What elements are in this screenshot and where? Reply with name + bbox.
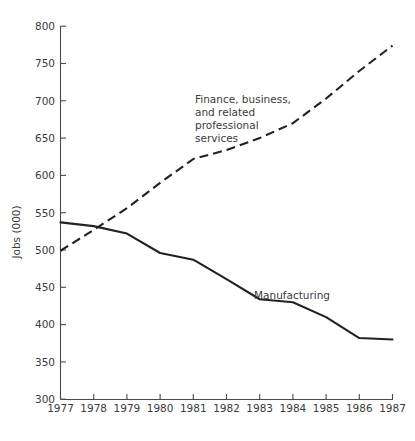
x-tick-label: 1977 <box>47 402 74 414</box>
finance-series-label: Finance, business, and related professio… <box>195 93 291 144</box>
y-axis-ticks <box>61 26 67 399</box>
y-tick-label: 400 <box>35 318 55 330</box>
annotation-line: professional <box>195 119 259 131</box>
chart-plot-area: 800 750 700 650 600 550 500 450 400 350 … <box>0 0 415 441</box>
x-tick-label: 1982 <box>213 402 240 414</box>
x-tick-label: 1984 <box>280 402 307 414</box>
series-line-manufacturing <box>61 222 393 339</box>
x-axis-tick-labels: 1977 1978 1979 1980 1981 1982 1983 1984 … <box>47 402 406 414</box>
y-axis-title: Jobs (000) <box>10 205 22 259</box>
annotation-line: Manufacturing <box>254 289 330 301</box>
y-axis-tick-labels: 800 750 700 650 600 550 500 450 400 350 … <box>35 20 55 405</box>
y-tick-label: 350 <box>35 356 55 368</box>
annotation-line: and related <box>195 106 255 118</box>
y-tick-label: 550 <box>35 207 55 219</box>
series-line-finance-business-professional-services <box>61 46 393 251</box>
y-tick-label: 500 <box>35 244 55 256</box>
x-tick-label: 1983 <box>246 402 273 414</box>
x-tick-label: 1987 <box>379 402 406 414</box>
y-tick-label: 750 <box>35 57 55 69</box>
y-tick-label: 650 <box>35 132 55 144</box>
y-tick-label: 800 <box>35 20 55 32</box>
x-tick-label: 1986 <box>346 402 373 414</box>
y-tick-label: 700 <box>35 95 55 107</box>
x-axis-ticks <box>61 394 393 400</box>
annotation-line: services <box>195 132 238 144</box>
y-tick-label: 600 <box>35 169 55 181</box>
y-tick-label: 450 <box>35 281 55 293</box>
annotation-line: Finance, business, <box>195 93 291 105</box>
x-tick-label: 1981 <box>180 402 207 414</box>
x-tick-label: 1985 <box>313 402 340 414</box>
line-chart-figure: 800 750 700 650 600 550 500 450 400 350 … <box>0 0 415 441</box>
x-tick-label: 1978 <box>80 402 107 414</box>
manufacturing-series-label: Manufacturing <box>254 289 330 301</box>
x-tick-label: 1979 <box>114 402 141 414</box>
x-tick-label: 1980 <box>147 402 174 414</box>
